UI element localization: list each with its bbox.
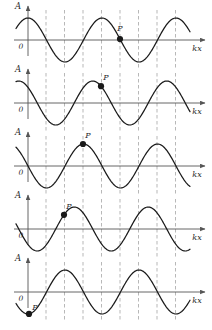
origin-label: 0: [19, 42, 24, 51]
point-p-label: P: [31, 303, 38, 312]
wave-panel-1: A0kxP: [14, 1, 205, 70]
horizontal-axis-label: kx: [192, 107, 202, 116]
wave-snapshot-figure: A0kxPA0kxPA0kxPA0kxPA0kxP: [0, 0, 212, 330]
wave-panel-2: A0kxP: [14, 64, 205, 133]
amplitude-axis-label: A: [14, 127, 21, 137]
point-p-marker: [80, 141, 86, 147]
origin-label: 0: [19, 168, 24, 177]
horizontal-axis-label: kx: [192, 233, 202, 242]
point-p-label: P: [65, 202, 72, 211]
horizontal-axis-label: kx: [192, 44, 202, 53]
point-p-label: P: [116, 24, 123, 33]
horizontal-axis-label: kx: [192, 170, 202, 179]
amplitude-axis-label: A: [14, 190, 21, 200]
amplitude-axis-label: A: [14, 253, 21, 263]
wave-panel-3: A0kxP: [14, 127, 205, 196]
origin-label: 0: [19, 105, 24, 114]
horizontal-axis-label: kx: [192, 296, 202, 305]
amplitude-axis-label: A: [14, 1, 21, 11]
amplitude-axis-label: A: [14, 64, 21, 74]
origin-label: 0: [19, 294, 24, 303]
wave-panel-4: A0kxP: [14, 190, 205, 259]
wave-panel-5: A0kxP: [14, 253, 205, 322]
point-p-label: P: [102, 73, 109, 82]
point-p-marker: [98, 83, 104, 89]
wave-figure-svg: A0kxPA0kxPA0kxPA0kxPA0kxP: [0, 0, 212, 330]
point-p-label: P: [84, 131, 91, 140]
point-p-marker: [26, 311, 32, 317]
point-p-marker: [117, 36, 123, 42]
point-p-marker: [61, 212, 67, 218]
